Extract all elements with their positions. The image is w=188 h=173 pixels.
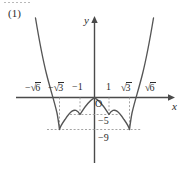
y-tick-label-neg-nine: −9 — [98, 133, 109, 143]
x-tick-label-neg-sqrt3: −√3 — [48, 82, 64, 93]
x-tick-label-neg-one: −1 — [72, 82, 83, 92]
x-tick-label-neg-sqrt6: −√6 — [25, 82, 41, 93]
x-tick-label-pos-one: 1 — [106, 82, 111, 92]
x-tick-label-pos-sqrt6: √6 — [145, 82, 156, 93]
origin-label: O — [95, 99, 102, 109]
figure-index-label: (1) — [8, 8, 21, 19]
x-axis-label: x — [172, 101, 177, 112]
x-tick-label-pos-sqrt3: √3 — [121, 82, 132, 93]
y-axis — [91, 16, 97, 163]
quartic-graph-figure: (1) y x O −√6 −√3 −1 1 √3 √6 −5 −9 — [0, 0, 188, 173]
y-axis-label: y — [84, 15, 89, 26]
y-tick-label-neg-five: −5 — [98, 116, 109, 126]
